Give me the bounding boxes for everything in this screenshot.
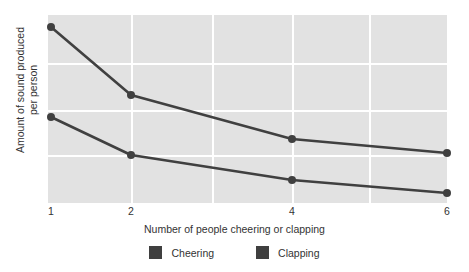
data-point [288, 176, 296, 184]
line-chart: 1 2 4 6 Number of people cheering or cla… [0, 0, 469, 272]
data-point [127, 151, 135, 159]
x-tick-label: 2 [128, 205, 134, 217]
chart-legend: Cheering Clapping [0, 246, 469, 259]
data-point [288, 135, 296, 143]
legend-item-clapping[interactable]: Clapping [256, 246, 319, 259]
data-point [47, 23, 55, 31]
data-point [443, 189, 451, 197]
y-axis-title: Amount of sound produced per person [14, 2, 40, 178]
legend-item-cheering[interactable]: Cheering [149, 246, 214, 259]
series-plot [48, 15, 447, 203]
y-axis-title-line-1: Amount of sound produced [14, 2, 27, 178]
data-point [443, 149, 451, 157]
x-tick-label: 4 [289, 205, 295, 217]
legend-label: Clapping [278, 247, 319, 259]
data-point [47, 113, 55, 121]
x-axis-title: Number of people cheering or clapping [0, 223, 469, 235]
legend-label: Cheering [171, 247, 214, 259]
legend-swatch-icon [256, 246, 269, 259]
plot-area [48, 15, 447, 203]
data-point [127, 91, 135, 99]
legend-swatch-icon [149, 246, 162, 259]
x-tick-label: 6 [444, 205, 450, 217]
series-line-cheering [51, 27, 447, 153]
y-axis-title-line-2: per person [27, 2, 40, 178]
x-tick-label: 1 [48, 205, 54, 217]
